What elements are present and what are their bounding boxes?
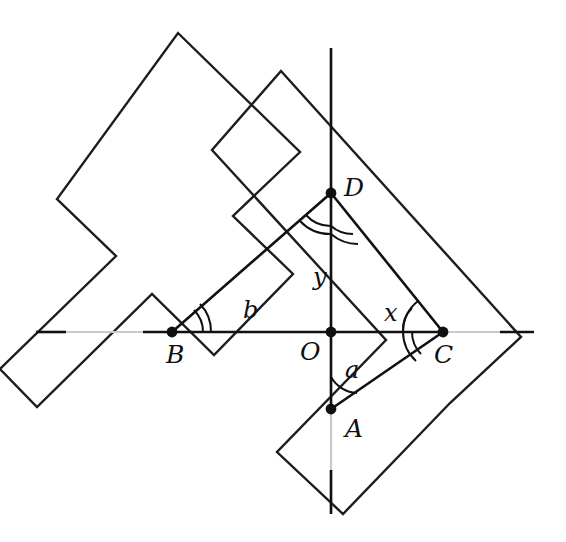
ruler-left-outline	[0, 33, 300, 407]
vertex-dot-A	[326, 404, 337, 415]
ruler-left-square	[0, 33, 300, 407]
segment-label-x: x	[384, 299, 398, 327]
vertex-dot-B	[167, 327, 178, 338]
ruler-right-square	[212, 71, 521, 514]
point-label-O: O	[300, 337, 321, 366]
segment-labels: a b x y	[243, 263, 398, 384]
segment-label-a: a	[345, 356, 359, 384]
vertex-dot-O	[326, 327, 337, 338]
segment-label-b: b	[243, 296, 258, 324]
point-label-D: D	[343, 173, 364, 202]
ruler-right-outline	[212, 71, 521, 514]
point-label-A: A	[343, 414, 363, 443]
diagram-canvas: A B C D O a b x y	[0, 0, 566, 542]
point-label-C: C	[434, 340, 453, 369]
segment-label-y: y	[312, 263, 327, 291]
angle-arc-d-right-1	[331, 226, 353, 234]
point-label-B: B	[165, 340, 184, 369]
vertex-dot-D	[326, 188, 337, 199]
angle-arc-group-D	[300, 215, 358, 244]
angle-arc-b-2	[200, 304, 211, 332]
triangle-sides	[172, 193, 443, 409]
angle-arc-d-right-2	[331, 234, 358, 244]
angle-arc-group-B	[194, 304, 211, 332]
vertex-dot-C	[438, 327, 449, 338]
angle-arc-d-left-1	[306, 215, 331, 226]
geometry-figure: A B C D O a b x y	[0, 0, 566, 542]
